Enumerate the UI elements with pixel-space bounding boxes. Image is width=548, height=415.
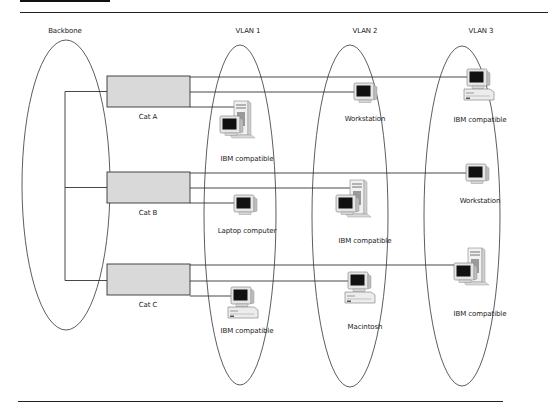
tower-computer-icon <box>454 248 489 285</box>
device-label: IBM compatible <box>339 237 392 245</box>
switch-label: Cat A <box>139 113 157 121</box>
backbone-ellipse <box>22 40 110 330</box>
workstation-monitor-icon <box>466 164 489 184</box>
switch-cat-a <box>107 76 190 107</box>
laptop-computer-icon <box>234 195 257 215</box>
switch-cat-b <box>107 172 190 203</box>
device-label: Macintosh <box>348 323 383 331</box>
switch-cat-c <box>107 264 190 295</box>
links-cat-a <box>190 77 469 107</box>
device-label: IBM compatible <box>454 116 507 124</box>
switch-label: Cat B <box>139 209 157 217</box>
desktop-computer-icon <box>464 69 494 100</box>
workstation-monitor-icon <box>354 83 377 103</box>
vlan3-label: VLAN 3 <box>469 27 494 35</box>
header-bar <box>20 0 110 2</box>
device-label: IBM compatible <box>454 310 507 318</box>
vlan2-label: VLAN 2 <box>353 27 378 35</box>
switch-label: Cat C <box>139 301 158 309</box>
device-label: IBM compatible <box>221 327 274 335</box>
desktop-computer-icon <box>228 287 258 318</box>
backbone-label: Backbone <box>48 27 82 35</box>
vlan1-label: VLAN 1 <box>236 27 261 35</box>
tower-computer-icon <box>336 180 371 217</box>
vlan-diagram <box>0 0 548 415</box>
device-label: IBM compatible <box>221 155 274 163</box>
device-label: Laptop computer <box>218 227 277 235</box>
macintosh-computer-icon <box>345 272 375 303</box>
device-label: Workstation <box>460 197 501 205</box>
device-label: Workstation <box>345 115 386 123</box>
backbone-trunk <box>65 92 107 281</box>
